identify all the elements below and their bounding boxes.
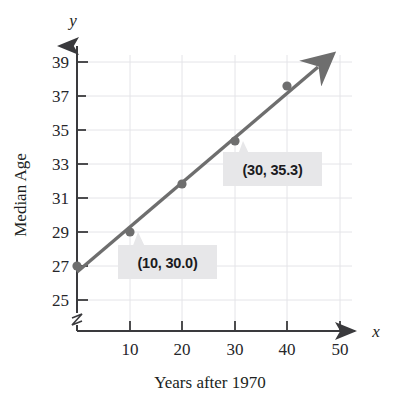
x-tick-label: 20 [174, 340, 191, 359]
y-axis-break-mark [72, 314, 82, 325]
data-point [177, 179, 186, 188]
annotation-10: (10, 30.0) [118, 232, 217, 279]
grid-lines [77, 55, 352, 330]
x-tick-marks [130, 321, 340, 331]
x-tick-label: 50 [332, 340, 349, 359]
chart-svg: 39 37 35 33 31 29 27 25 10 20 30 40 50 [0, 0, 398, 408]
y-tick-label: 39 [52, 53, 69, 72]
y-tick-label: 33 [52, 155, 69, 174]
chart-figure: 39 37 35 33 31 29 27 25 10 20 30 40 50 [0, 0, 398, 408]
y-tick-label: 37 [52, 87, 70, 106]
y-tick-label: 25 [52, 291, 69, 310]
data-point [125, 227, 134, 236]
x-tick-label: 10 [122, 340, 139, 359]
data-point [282, 81, 291, 90]
annotation-30: (30, 35.3) [223, 141, 322, 186]
annotation-label: (30, 35.3) [242, 162, 302, 178]
x-tick-label: 40 [279, 340, 296, 359]
x-axis-title: Years after 1970 [154, 373, 266, 392]
y-tick-labels: 39 37 35 33 31 29 27 25 [52, 53, 70, 310]
y-tick-label: 31 [52, 189, 69, 208]
data-point [230, 136, 239, 145]
annotation-label: (10, 30.0) [137, 255, 197, 271]
y-axis-title: Median Age [11, 153, 30, 237]
y-axis-variable-label: y [67, 11, 77, 30]
axes [72, 46, 355, 331]
y-tick-label: 27 [52, 257, 70, 276]
x-tick-label: 30 [227, 340, 244, 359]
x-tick-labels: 10 20 30 40 50 [122, 340, 349, 359]
y-tick-label: 35 [52, 121, 69, 140]
y-tick-label: 29 [52, 223, 69, 242]
data-point [72, 261, 81, 270]
x-axis-variable-label: x [371, 322, 380, 341]
